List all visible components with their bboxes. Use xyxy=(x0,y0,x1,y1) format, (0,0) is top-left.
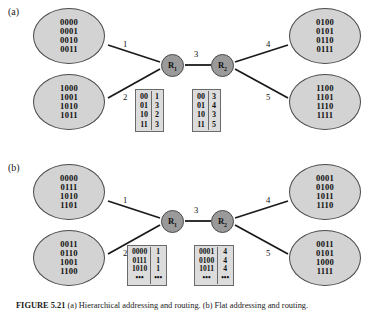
table-cell: 4 xyxy=(212,101,216,110)
table-cell: 3 xyxy=(212,110,216,119)
link-label-5: 5 xyxy=(266,92,270,102)
link-label-1: 1 xyxy=(123,195,127,205)
host-address: 1100 xyxy=(60,267,78,276)
table-cell: 00 xyxy=(140,92,148,101)
router-r1-label: R1 xyxy=(168,60,177,72)
forwarding-table-r1: 00 01 10 11 1 3 2 3 xyxy=(135,89,164,132)
table-cell: 3 xyxy=(155,101,159,110)
host-group-bottom-right: 0011 0101 1000 1111 xyxy=(289,230,361,286)
table-cell: 01 xyxy=(140,101,148,110)
host-address: 0011 xyxy=(60,45,78,54)
host-group-bottom-left: 0011 0110 1001 1100 xyxy=(33,230,105,286)
host-group-top-left: 0000 0001 0010 0011 xyxy=(33,8,105,64)
router-r2-label: R2 xyxy=(218,60,227,72)
router-r2-label: R2 xyxy=(218,216,227,228)
link-label-2: 2 xyxy=(123,92,127,102)
link-label-3: 3 xyxy=(194,49,198,59)
table-cell: ••• xyxy=(154,274,162,283)
host-address: 1110 xyxy=(316,201,333,210)
table-cell: 3 xyxy=(155,120,159,129)
table-cell: 10 xyxy=(140,110,148,119)
table-address-column: 0001 0100 1011 ••• xyxy=(196,247,218,284)
link-label-4: 4 xyxy=(266,195,270,205)
table-cell: 2 xyxy=(155,110,159,119)
table-prefix-column: 00 01 10 11 xyxy=(137,91,152,130)
router-r1: R1 xyxy=(161,210,184,233)
host-group-top-right: 0100 0101 0110 0111 xyxy=(289,8,361,64)
table-cell: 01 xyxy=(197,101,205,110)
table-cell: 1 xyxy=(155,92,159,101)
host-group-bottom-left: 1000 1001 1010 1011 xyxy=(33,74,105,130)
table-cell: ••• xyxy=(221,274,229,283)
panel-a: (a) 0000 0001 0010 0011 1000 1001 1010 1… xyxy=(0,0,370,156)
host-group-top-right: 0001 0100 1011 1110 xyxy=(289,164,361,220)
table-cell: 10 xyxy=(197,110,205,119)
host-address: 1101 xyxy=(60,201,78,210)
forwarding-table-r2: 0001 0100 1011 ••• 4 4 4 ••• xyxy=(194,245,234,286)
table-cell: ••• xyxy=(203,274,211,283)
figure-caption-label: FIGURE 5.21 xyxy=(16,301,65,310)
table-cell: 11 xyxy=(197,120,205,129)
router-r1: R1 xyxy=(161,54,184,77)
host-address: 1111 xyxy=(317,111,334,120)
host-address: 1011 xyxy=(60,111,78,120)
panel-b: (b) 0000 0111 1010 1101 0011 0110 1001 1… xyxy=(0,156,370,312)
table-cell: ••• xyxy=(136,274,144,283)
link-label-5: 5 xyxy=(266,248,270,258)
host-group-top-left: 0000 0111 1010 1101 xyxy=(33,164,105,220)
router-r2: R2 xyxy=(211,54,234,77)
table-output-column: 1 1 1 ••• xyxy=(151,247,165,284)
figure-container: (a) 0000 0001 0010 0011 1000 1001 1010 1… xyxy=(0,0,370,313)
forwarding-table-r2: 00 01 10 11 3 4 3 5 xyxy=(192,89,221,132)
router-r1-label: R1 xyxy=(168,216,177,228)
router-r2: R2 xyxy=(211,210,234,233)
table-cell: 3 xyxy=(212,92,216,101)
table-output-column: 1 3 2 3 xyxy=(152,91,162,130)
link-label-3: 3 xyxy=(194,205,198,215)
table-cell: 00 xyxy=(197,92,205,101)
table-output-column: 3 4 3 5 xyxy=(209,91,219,130)
figure-caption: FIGURE 5.21 (a) Hierarchical addressing … xyxy=(16,301,356,313)
figure-caption-text: (a) Hierarchical addressing and routing.… xyxy=(67,301,308,310)
host-group-bottom-right: 1100 1101 1110 1111 xyxy=(289,74,361,130)
table-cell: 11 xyxy=(140,120,148,129)
link-label-1: 1 xyxy=(123,39,127,49)
table-prefix-column: 00 01 10 11 xyxy=(194,91,209,130)
table-cell: 5 xyxy=(212,120,216,129)
host-address: 0111 xyxy=(316,45,333,54)
table-output-column: 4 4 4 ••• xyxy=(218,247,232,284)
table-address-column: 0000 0111 1010 ••• xyxy=(129,247,151,284)
forwarding-table-r1: 0000 0111 1010 ••• 1 1 1 ••• xyxy=(127,245,167,286)
link-label-4: 4 xyxy=(266,39,270,49)
host-address: 1111 xyxy=(317,267,334,276)
